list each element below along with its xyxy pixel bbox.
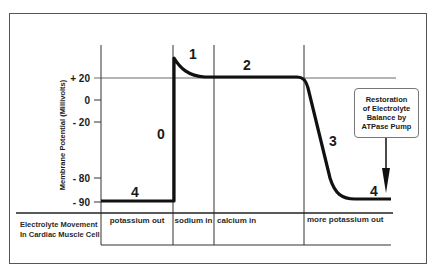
tick-label-m20: - 20: [73, 117, 91, 128]
callout-line-3: Balance by: [362, 113, 412, 122]
table-cell-calcium-in: calcium in: [217, 216, 256, 225]
phase-label-3: 3: [329, 133, 337, 149]
atpase-pump-callout: Restoration of Electrolyte Balance by AT…: [354, 88, 419, 138]
tick-label-m80: - 80: [73, 173, 91, 184]
tick-label-p20: + 20: [70, 73, 90, 84]
table-row-label-line1: Electrolyte Movement: [20, 220, 98, 229]
table-cell-potassium-out: potassium out: [110, 216, 165, 225]
table-row-label-line2: In Cardiac Muscle Cell: [20, 230, 100, 239]
tick-label-m90: - 90: [73, 197, 91, 208]
table-cell-sodium-in: sodium in: [175, 216, 213, 225]
table-cell-more-potassium-out: more potassium out: [307, 215, 384, 224]
tick-label-zero: 0: [84, 95, 90, 106]
callout-line-4: ATPase Pump: [362, 122, 412, 131]
arrow-down-icon: [382, 168, 390, 193]
phase-label-2: 2: [243, 57, 251, 73]
action-potential-curve: [101, 58, 391, 201]
action-potential-diagram: + 20 0 - 20 - 80 - 90 Membrane Potential…: [0, 0, 439, 276]
phase-label-1: 1: [189, 46, 197, 62]
y-axis-label: Membrane Potential (Millivolts): [58, 79, 67, 190]
callout-line-2: of Electrolyte: [362, 104, 412, 113]
callout-line-1: Restoration: [362, 95, 412, 104]
phase-label-0: 0: [157, 126, 165, 142]
phase-label-4-right: 4: [370, 183, 378, 199]
phase-label-4-left: 4: [131, 184, 139, 200]
